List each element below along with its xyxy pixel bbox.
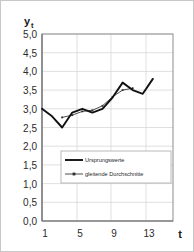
y-tick-label: 2,5 (23, 123, 37, 134)
legend-box (61, 151, 171, 183)
y-tick-label: 2,0 (23, 141, 37, 152)
series-marker (81, 111, 83, 113)
series-marker (122, 89, 124, 91)
chart-legend: Ursprungswerte gleitende Durchschnitte (61, 151, 171, 183)
x-tick-label: 9 (111, 228, 117, 239)
series-marker (91, 109, 93, 111)
x-tick-labels: 1 5 9 13 (42, 228, 155, 239)
chart-figure-frame: y t 5,0 4,5 4,0 3,5 3,0 2,5 2,0 1,5 1,0 … (0, 0, 194, 252)
x-tick-label: 1 (42, 228, 48, 239)
y-tick-label: 4,0 (23, 66, 37, 77)
x-tick-label: 13 (143, 228, 155, 239)
y-tick-label: 1,5 (23, 160, 37, 171)
y-tick-label: 3,5 (23, 85, 37, 96)
x-axis-title: t (178, 228, 182, 240)
y-axis-title: y (24, 15, 31, 27)
legend-swatch-marker-icon (73, 173, 76, 176)
y-tick-label: 0,0 (23, 216, 37, 227)
y-tick-labels: 5,0 4,5 4,0 3,5 3,0 2,5 2,0 1,5 1,0 0,5 … (23, 29, 37, 227)
chart-canvas: y t 5,0 4,5 4,0 3,5 3,0 2,5 2,0 1,5 1,0 … (1, 1, 194, 252)
y-tick-label: 3,0 (23, 104, 37, 115)
y-tick-label: 0,5 (23, 197, 37, 208)
line-chart: y t 5,0 4,5 4,0 3,5 3,0 2,5 2,0 1,5 1,0 … (1, 1, 194, 252)
y-tick-label: 5,0 (23, 29, 37, 40)
series-marker (61, 117, 63, 119)
y-tick-label: 1,0 (23, 179, 37, 190)
legend-label: Ursprungswerte (85, 157, 124, 163)
series-marker (102, 105, 104, 107)
y-tick-label: 4,5 (23, 48, 37, 59)
x-tick-label: 5 (77, 228, 83, 239)
legend-label: gleitende Durchschnitte (85, 171, 143, 177)
